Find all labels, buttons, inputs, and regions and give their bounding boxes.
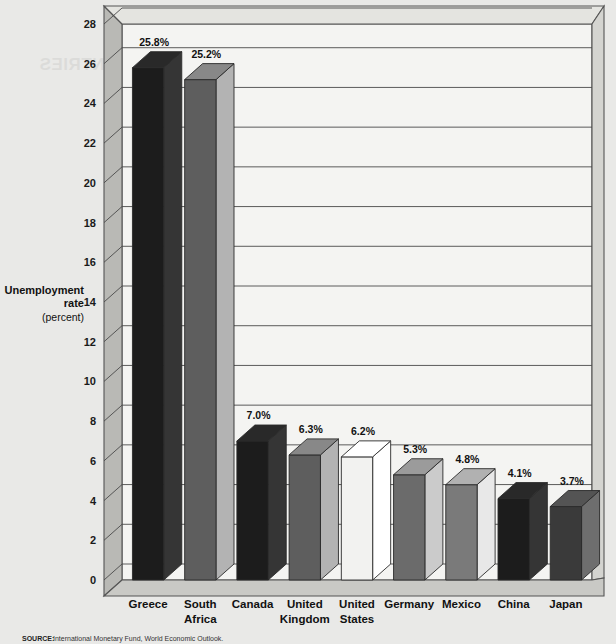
y-tick-label: 10 <box>84 375 96 387</box>
bar <box>289 439 338 580</box>
bar-value-label: 5.3% <box>403 443 428 455</box>
bar-side-face <box>529 483 547 580</box>
bar-front-face <box>289 455 320 580</box>
bar-front-face <box>394 475 425 580</box>
y-tick-label: 26 <box>84 58 96 70</box>
bar-front-face <box>498 499 529 580</box>
bar-value-label: 25.8% <box>139 36 169 48</box>
bar <box>132 52 181 580</box>
bar <box>185 64 234 580</box>
bar-front-face <box>341 457 372 580</box>
bar-value-label: 3.7% <box>560 475 585 487</box>
category-label: States <box>340 613 375 625</box>
source-label: SOURCE: <box>22 635 54 642</box>
category-label: United <box>339 598 375 610</box>
y-axis-title-line1: Unemployment <box>5 284 85 296</box>
category-label: United <box>287 598 323 610</box>
y-tick-label: 6 <box>90 455 96 467</box>
y-tick-label: 14 <box>84 296 97 308</box>
y-tick-label: 2 <box>90 534 96 546</box>
source-text: International Monetary Fund, World Econo… <box>53 635 223 643</box>
category-label: China <box>498 598 531 610</box>
bar <box>550 491 599 580</box>
category-label: Japan <box>549 598 582 610</box>
y-tick-label: 4 <box>90 495 97 507</box>
category-label: Germany <box>384 598 434 610</box>
bar-value-label: 4.8% <box>455 453 480 465</box>
y-tick-label: 20 <box>84 177 96 189</box>
bar-value-label: 4.1% <box>508 467 533 479</box>
bar-value-label: 6.2% <box>351 425 376 437</box>
bar <box>237 425 286 580</box>
chart-svg: THE U.S. ECONOMY COMPARED WITH OTHER COU… <box>0 0 616 644</box>
bar-side-face <box>425 459 443 580</box>
y-tick-label: 12 <box>84 336 96 348</box>
bar-value-label: 7.0% <box>247 409 272 421</box>
bar-side-face <box>164 52 182 580</box>
unemployment-rate-chart: THE U.S. ECONOMY COMPARED WITH OTHER COU… <box>0 0 616 644</box>
bar-side-face <box>320 439 338 580</box>
bar-front-face <box>237 441 268 580</box>
bar <box>446 469 495 580</box>
plot-left-wall <box>104 6 122 596</box>
bar-value-label: 6.3% <box>299 423 324 435</box>
category-label: Greece <box>129 598 168 610</box>
bar-side-face <box>477 469 495 580</box>
source-note: SOURCE: International Monetary Fund, Wor… <box>22 635 223 643</box>
category-label: Mexico <box>442 598 481 610</box>
y-tick-label: 0 <box>90 574 96 586</box>
y-tick-label: 16 <box>84 256 96 268</box>
category-label: Canada <box>232 598 274 610</box>
y-tick-label: 22 <box>84 137 96 149</box>
bar <box>341 441 390 580</box>
category-label: Kingdom <box>280 613 330 625</box>
y-axis-title-line2: rate <box>64 297 84 309</box>
y-tick-label: 24 <box>84 97 97 109</box>
y-tick-label: 8 <box>90 415 96 427</box>
bar-side-face <box>216 64 234 580</box>
y-tick-label: 28 <box>84 18 96 30</box>
bar-side-face <box>268 425 286 580</box>
category-label: South <box>184 598 217 610</box>
category-label: Africa <box>184 613 217 625</box>
bar-value-label: 25.2% <box>191 48 221 60</box>
bar-side-face <box>373 441 391 580</box>
bar-front-face <box>185 80 216 580</box>
y-tick-label: 18 <box>84 217 96 229</box>
bar-front-face <box>446 485 477 580</box>
bar <box>498 483 547 580</box>
bar-front-face <box>132 68 163 580</box>
bar <box>394 459 443 580</box>
plot-ceiling <box>104 6 604 24</box>
y-axis-title-line3: (percent) <box>42 311 84 323</box>
bar-front-face <box>550 507 581 580</box>
